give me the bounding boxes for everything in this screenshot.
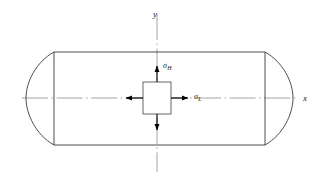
hoop-stress-label: σH [163,61,172,71]
stress-element-square [143,82,171,114]
y-axis-label: y [152,9,157,19]
pressure-vessel-stress-diagram: σH σL y x [0,0,319,178]
diagram-canvas: σH σL y x [0,0,319,178]
right-end-cap [265,52,293,145]
longitudinal-stress-subscript: L [197,96,202,102]
x-axis-label: x [302,93,307,103]
left-end-cap [26,52,54,145]
hoop-stress-subscript: H [166,65,172,71]
longitudinal-stress-label: σL [194,92,202,102]
axis-label-group: y x [152,9,307,103]
